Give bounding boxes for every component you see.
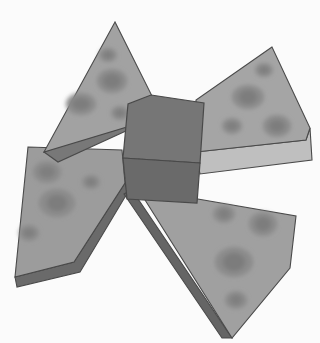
dimple-core xyxy=(23,229,35,237)
central-block-top-face xyxy=(123,95,204,163)
dimple-core xyxy=(47,195,67,211)
dimple-core xyxy=(223,253,245,271)
dimple-core xyxy=(103,74,121,88)
dimple-core xyxy=(255,217,271,231)
dimple-core xyxy=(72,98,90,110)
dimple-core xyxy=(39,166,55,178)
central-block-front-face xyxy=(123,158,200,203)
scene-svg xyxy=(0,0,320,343)
dimple-core xyxy=(269,120,285,132)
dimple-core xyxy=(218,209,230,219)
dimple-core xyxy=(103,51,113,59)
central-block xyxy=(123,95,204,203)
dimple-core xyxy=(226,122,238,130)
render-canvas: Grayscale 3D render of a four-winged pin… xyxy=(0,0,320,343)
dimple-core xyxy=(86,178,96,186)
dimple-core xyxy=(259,66,269,74)
dimple-core xyxy=(115,109,125,117)
dimple-core xyxy=(230,295,242,305)
dimple-core xyxy=(239,90,257,104)
